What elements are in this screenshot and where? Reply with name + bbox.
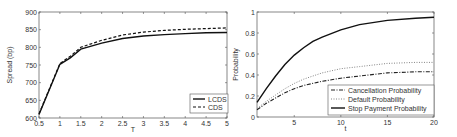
- x-tick-label: 15: [384, 119, 392, 126]
- y-axis-label: Probability: [232, 48, 240, 81]
- spread-chart: 0.511.522.533.544.5560065070075080085090…: [6, 9, 229, 134]
- legend-entry: CDS: [208, 104, 223, 111]
- probability-chart: 510152000.20.40.60.81tProbabilityCancell…: [232, 9, 438, 133]
- x-tick-label: 4.5: [201, 120, 211, 127]
- y-tick-label: 0.4: [245, 72, 255, 79]
- x-tick-label: 1: [58, 120, 62, 127]
- x-axis-label: T: [131, 126, 136, 133]
- y-tick-label: 0.8: [245, 30, 255, 37]
- x-tick-label: 3: [141, 120, 145, 127]
- figure: 0.511.522.533.544.5560065070075080085090…: [0, 0, 457, 137]
- y-tick-label: 0.2: [245, 93, 255, 100]
- x-tick-label: 4: [183, 120, 187, 127]
- x-axis-label: t: [345, 125, 347, 132]
- y-tick-label: 650: [25, 97, 37, 104]
- y-tick-label: 1: [251, 9, 255, 16]
- x-tick-label: 5: [225, 120, 229, 127]
- y-tick-label: 900: [25, 9, 37, 16]
- x-tick-label: 5: [292, 119, 296, 126]
- y-tick-label: 800: [25, 44, 37, 51]
- x-tick-label: 2: [100, 120, 104, 127]
- x-tick-label: 2.5: [118, 120, 128, 127]
- y-tick-label: 850: [25, 26, 37, 33]
- x-tick-label: 1.5: [76, 120, 86, 127]
- legend-entry: Default Probability: [348, 96, 405, 104]
- y-tick-label: 700: [25, 79, 37, 86]
- y-tick-label: 0.6: [245, 51, 255, 58]
- legend-entry: Stop Payment Probability: [348, 105, 427, 113]
- y-tick-label: 600: [25, 115, 37, 122]
- y-tick-label: 750: [25, 62, 37, 69]
- y-axis-label: Spread (bp): [6, 47, 14, 84]
- legend-entry: LCDS: [208, 96, 227, 103]
- y-tick-label: 0: [251, 114, 255, 121]
- x-tick-label: 20: [430, 119, 438, 126]
- x-tick-label: 3.5: [159, 120, 169, 127]
- legend-entry: Cancellation Probability: [348, 87, 422, 95]
